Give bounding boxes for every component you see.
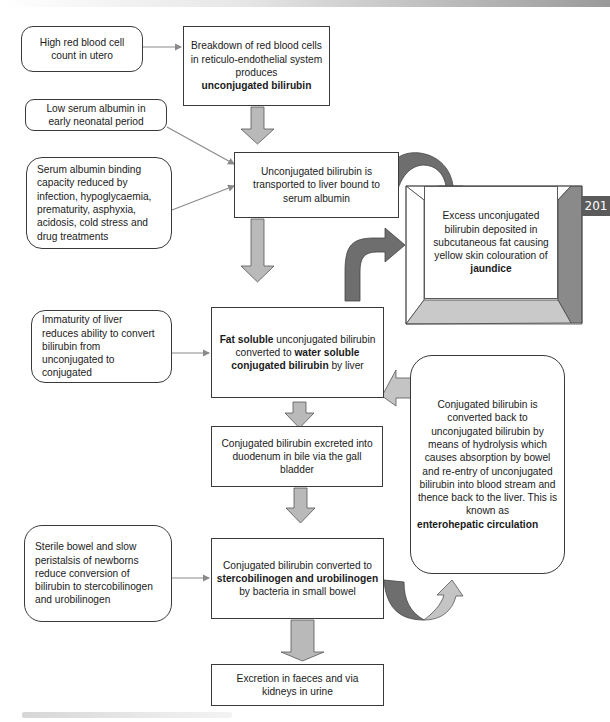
jaundice-box: Excess unconjugated bilirubin deposited … <box>424 186 558 299</box>
page-number: 201 <box>585 199 608 213</box>
jaundice-bold: jaundice <box>470 262 511 275</box>
curved-arrow-to-enterohepatic <box>424 580 463 620</box>
flow-breakdown-text: Breakdown of red blood cells in reticulo… <box>190 39 323 79</box>
factor-low-albumin: Low serum albumin in early neonatal peri… <box>25 99 167 131</box>
flow-breakdown-bold: unconjugated bilirubin <box>202 79 312 92</box>
jaundice-text: Excess unconjugated bilirubin deposited … <box>429 209 553 262</box>
flow-transport-text: Unconjugated bilirubin is transported to… <box>241 165 392 205</box>
liver-text-2: by liver <box>329 360 364 371</box>
factor-sterile-bowel: Sterile bowel and slow peristalsis of ne… <box>24 525 172 622</box>
flow-liver-conversion: Fat soluble unconjugated bilirubin conve… <box>211 307 384 398</box>
flow-final-excretion: Excretion in faeces and via kidneys in u… <box>211 664 384 706</box>
flow-transport: Unconjugated bilirubin is transported to… <box>234 152 399 218</box>
factor-liver-immaturity: Immaturity of liver reduces ability to c… <box>31 310 172 383</box>
flow-bowel-bold: stercobilinogen and urobilinogen <box>217 572 378 585</box>
curved-arrow-bowel-dark <box>384 580 424 620</box>
down-arrow-5 <box>281 620 324 661</box>
flow-bowel-text-1: Conjugated bilirubin converted to <box>223 559 372 572</box>
flow-bowel-conversion: Conjugated bilirubin converted to sterco… <box>211 538 384 619</box>
left-arrow-enterohepatic <box>382 370 411 406</box>
factor-sterile-bowel-text: Sterile bowel and slow peristalsis of ne… <box>35 540 161 606</box>
factor-high-rbc: High red blood cell count in utero <box>21 26 143 72</box>
enterohepatic-text: Conjugated bilirubin is converted back t… <box>417 398 558 518</box>
flow-excretion-bile-text: Conjugated bilirubin excreted into duode… <box>218 437 376 477</box>
down-arrow-4 <box>286 488 315 523</box>
enterohepatic-box: Conjugated bilirubin is converted back t… <box>410 355 565 574</box>
enterohepatic-bold: enterohepatic circulation <box>417 518 538 531</box>
fat-soluble-label: Fat soluble <box>220 334 274 345</box>
down-arrow-2 <box>241 219 274 282</box>
flow-breakdown: Breakdown of red blood cells in reticulo… <box>183 26 330 106</box>
connector-binding-capacity <box>172 186 234 210</box>
connector-low-albumin <box>167 127 234 164</box>
flow-liver-conversion-text: Fat soluble unconjugated bilirubin conve… <box>218 333 377 373</box>
flow-bowel-text-2: by bacteria in small bowel <box>239 585 356 598</box>
down-arrow-1 <box>241 107 274 144</box>
factor-low-albumin-text: Low serum albumin in early neonatal peri… <box>36 102 156 129</box>
page-number-tab: 201 <box>582 196 610 216</box>
flow-final-excretion-text: Excretion in faeces and via kidneys in u… <box>218 672 377 699</box>
figure-caption-illegible <box>22 712 232 718</box>
down-arrow-3 <box>285 402 314 428</box>
flow-excretion-bile: Conjugated bilirubin excreted into duode… <box>211 426 383 487</box>
factor-binding-capacity-text: Serum albumin binding capacity reduced b… <box>37 163 161 243</box>
factor-liver-immaturity-text: Immaturity of liver reduces ability to c… <box>42 313 161 379</box>
factor-binding-capacity: Serum albumin binding capacity reduced b… <box>26 157 172 249</box>
factor-high-rbc-text: High red blood cell count in utero <box>32 36 132 63</box>
curved-arrow-up-to-jaundice <box>345 228 405 301</box>
